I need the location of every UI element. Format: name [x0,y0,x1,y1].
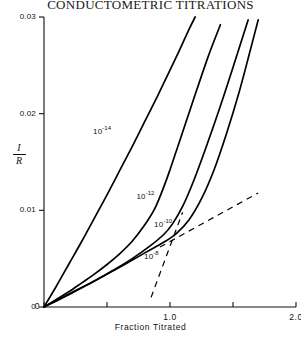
curve-label-10^-14: 10-14 [93,125,111,136]
curve-label-10^-8: 10-8 [144,250,159,261]
chart-axes [44,17,296,307]
y-axis-tick-label: 0.02 [0,109,36,118]
y-axis-label-denominator: R [8,156,30,166]
curve-label-base: 10 [144,251,153,260]
x-axis-label: Fraction Titrated [0,322,301,332]
curve-label-exponent: -10 [163,218,172,224]
curve-label-base: 10 [136,192,145,201]
curve-label-base: 10 [93,127,102,136]
y-axis-ticks [39,17,44,307]
curve-label-exponent: -8 [153,250,158,256]
curve-label-exponent: -14 [102,125,111,131]
x-axis-tick-label: 1.0 [150,312,190,322]
curve-series-2 [44,20,248,307]
x-axis-ticks [44,302,296,307]
curve-label-exponent: -12 [146,190,155,196]
y-axis-tick-label: 0.03 [0,12,36,21]
chart-plot-area [0,0,301,346]
x-axis-tick-label: 0 [18,301,40,311]
curve-series-3 [44,20,258,307]
chart-series-curves [44,17,258,307]
y-axis-tick-label: 0.01 [0,205,36,214]
curve-label-10^-10: 10-10 [154,218,172,229]
x-axis-tick-label: 2.0 [276,312,301,322]
y-axis-label: I R [8,143,30,166]
chart-dashed-asymptotes [151,193,258,297]
figure-conductometric-titrations: CONDUCTOMETRIC TITRATIONS 00.010.020.03 … [0,0,301,346]
curve-series-1 [44,25,220,307]
y-axis-label-numerator: I [8,143,30,153]
curve-label-10^-12: 10-12 [136,190,154,201]
